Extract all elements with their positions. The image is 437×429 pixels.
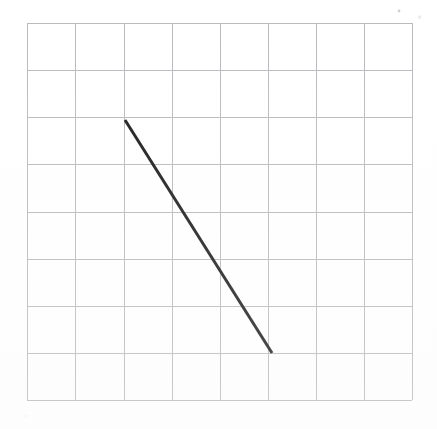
- scan-speck-artifact: [398, 10, 401, 13]
- grid-diagram-svg: [0, 0, 437, 429]
- figure-background: [0, 0, 437, 429]
- figure-canvas: [0, 0, 437, 429]
